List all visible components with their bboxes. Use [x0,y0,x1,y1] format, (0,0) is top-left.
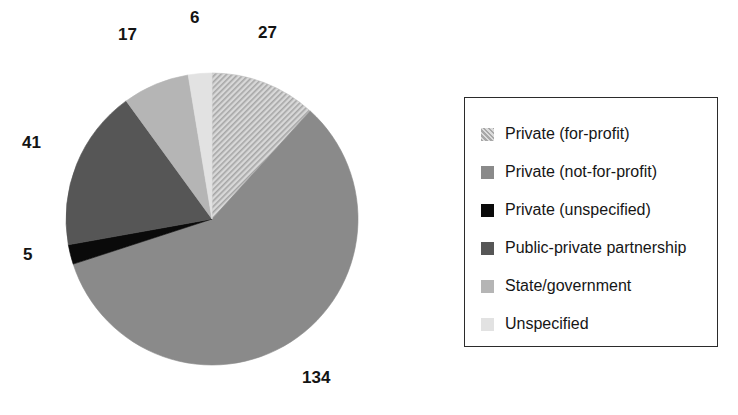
legend-swatch-public-private-partnership [481,242,494,255]
pie-chart-figure: 27 134 5 41 17 6 Private (for-profit)Pri… [0,0,738,415]
legend-swatch-private-unspecified [481,204,494,217]
pie-label-public-private-partnership: 41 [22,133,41,153]
legend-item-label: Unspecified [505,316,589,332]
pie-chart-svg [0,0,420,415]
legend-item[interactable]: State/government [481,267,711,305]
legend-item-label: Private (unspecified) [505,202,651,218]
legend-item[interactable]: Private (for-profit) [481,115,711,153]
legend-swatch-state-government [481,280,494,293]
pie-label-private-for-profit: 27 [258,23,277,43]
pie-label-state-government: 17 [118,25,137,45]
legend-swatch-private-for-profit [481,128,494,141]
legend-item-list: Private (for-profit)Private (not-for-pro… [481,115,711,343]
pie-label-private-unspecified: 5 [23,245,32,265]
pie-label-private-not-for-profit: 134 [302,368,330,388]
legend-item[interactable]: Unspecified [481,305,711,343]
legend: Private (for-profit)Private (not-for-pro… [464,97,718,347]
pie-chart-plot-area: 27 134 5 41 17 6 [0,0,420,415]
pie-slice-group [66,73,358,365]
legend-item-label: Public-private partnership [505,240,686,256]
pie-label-unspecified: 6 [190,8,199,28]
legend-item[interactable]: Private (not-for-profit) [481,153,711,191]
legend-swatch-private-not-for-profit [481,166,494,179]
legend-item-label: Private (for-profit) [505,126,629,142]
legend-item-label: State/government [505,278,631,294]
legend-item[interactable]: Public-private partnership [481,229,711,267]
legend-item-label: Private (not-for-profit) [505,164,657,180]
legend-swatch-unspecified [481,318,494,331]
legend-item[interactable]: Private (unspecified) [481,191,711,229]
